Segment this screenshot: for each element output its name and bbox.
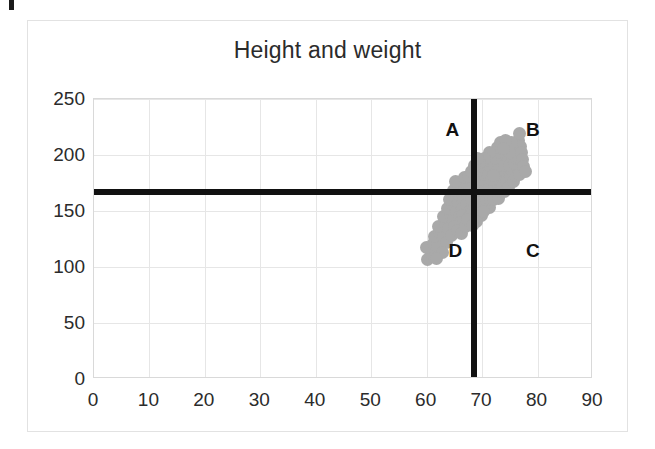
x-tick-label: 80 bbox=[510, 390, 564, 409]
quadrant-label-c: C bbox=[526, 241, 540, 260]
reference-line-horizontal bbox=[94, 189, 591, 195]
scatter-point bbox=[477, 205, 490, 218]
scatter-point bbox=[487, 169, 500, 182]
x-tick-label: 90 bbox=[565, 390, 619, 409]
y-tick-label: 100 bbox=[37, 257, 85, 276]
gridline-horizontal bbox=[94, 99, 591, 100]
gridline-vertical bbox=[371, 99, 372, 377]
x-tick-label: 70 bbox=[454, 390, 508, 409]
x-tick-label: 10 bbox=[121, 390, 175, 409]
x-tick-label: 60 bbox=[399, 390, 453, 409]
plot-inner: ABCD bbox=[94, 99, 591, 377]
reference-line-vertical bbox=[471, 99, 477, 377]
x-tick-label: 50 bbox=[343, 390, 397, 409]
gridline-horizontal bbox=[94, 267, 591, 268]
y-tick-label: 200 bbox=[37, 145, 85, 164]
chart-title: Height and weight bbox=[0, 37, 655, 64]
x-axis-tick-labels: 0102030405060708090 bbox=[93, 390, 592, 416]
gridline-horizontal bbox=[94, 323, 591, 324]
scatter-point bbox=[430, 252, 443, 265]
y-tick-label: 150 bbox=[37, 201, 85, 220]
quadrant-label-a: A bbox=[446, 120, 460, 139]
y-tick-label: 50 bbox=[37, 313, 85, 332]
scan-artifact-mark bbox=[9, 0, 14, 10]
x-tick-label: 30 bbox=[232, 390, 286, 409]
gridline-vertical bbox=[205, 99, 206, 377]
y-tick-label: 0 bbox=[37, 369, 85, 388]
gridline-vertical bbox=[316, 99, 317, 377]
quadrant-label-b: B bbox=[526, 120, 540, 139]
gridline-vertical bbox=[482, 99, 483, 377]
plot-area: ABCD bbox=[93, 98, 592, 378]
quadrant-label-d: D bbox=[448, 241, 462, 260]
scatter-point bbox=[497, 142, 510, 155]
gridline-vertical bbox=[260, 99, 261, 377]
scatter-point bbox=[519, 165, 532, 178]
y-tick-label: 250 bbox=[37, 89, 85, 108]
gridline-vertical bbox=[538, 99, 539, 377]
gridline-horizontal bbox=[94, 211, 591, 212]
gridline-vertical bbox=[149, 99, 150, 377]
x-tick-label: 40 bbox=[288, 390, 342, 409]
x-tick-label: 20 bbox=[177, 390, 231, 409]
y-axis-tick-labels: 050100150200250 bbox=[33, 98, 85, 378]
x-tick-label: 0 bbox=[66, 390, 120, 409]
